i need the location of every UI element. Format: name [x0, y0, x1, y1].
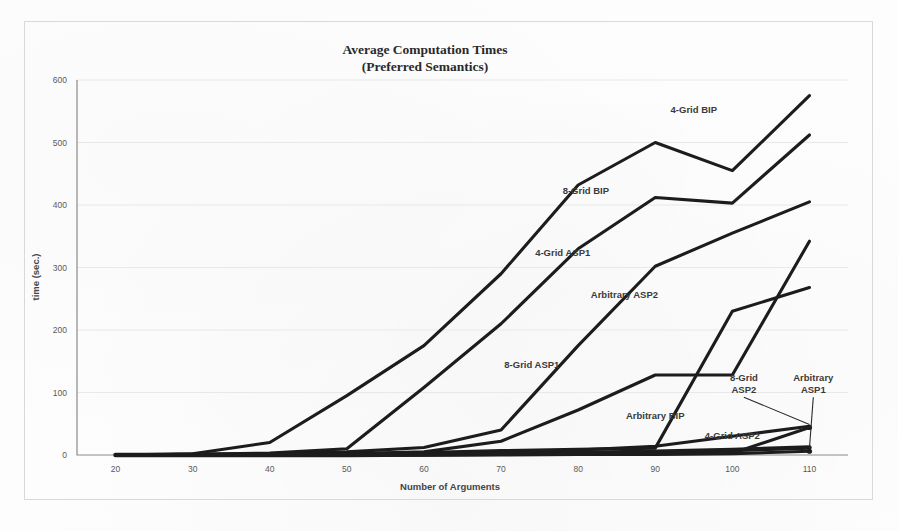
- y-axis-tick-labels: 0100200300400500600: [53, 75, 67, 460]
- series-callout-line: 8-Grid: [730, 372, 758, 383]
- series-callout-arbitrary-asp1: ArbitraryASP1: [793, 372, 834, 454]
- series-label-4-grid-asp2: 4-Grid ASP2: [705, 430, 760, 441]
- series-callout-line: Arbitrary: [793, 372, 834, 383]
- series-callout-line: ASP2: [732, 384, 757, 395]
- chart-frame: 0100200300400500600 20304050607080901001…: [24, 21, 873, 500]
- data-line-8-grid-asp1: [116, 241, 810, 455]
- chart-title: Average Computation Times: [343, 42, 508, 57]
- y-tick-label: 0: [62, 450, 67, 460]
- y-tick-label: 600: [53, 75, 67, 85]
- series-label-8-grid-asp1: 8-Grid ASP1: [504, 359, 560, 370]
- x-axis-tick-labels: 2030405060708090100110: [111, 464, 817, 474]
- x-tick-label: 80: [573, 464, 583, 474]
- series-label-arbitrary-bip: Arbitrary BIP: [626, 410, 685, 421]
- line-chart: 0100200300400500600 20304050607080901001…: [25, 22, 872, 499]
- grid-layer: [77, 80, 848, 393]
- x-tick-label: 30: [188, 464, 198, 474]
- callout-leader-line: [809, 397, 813, 448]
- y-tick-label: 400: [53, 200, 67, 210]
- y-tick-label: 500: [53, 138, 67, 148]
- chart-subtitle: (Preferred Semantics): [362, 59, 489, 74]
- series-label-8-grid-bip: 8-Grid BIP: [563, 185, 610, 196]
- x-tick-label: 100: [725, 464, 739, 474]
- x-tick-label: 40: [265, 464, 275, 474]
- y-axis-label: time (sec.): [30, 254, 41, 301]
- y-tick-label: 200: [53, 325, 67, 335]
- series-callout-line: ASP1: [801, 384, 827, 395]
- y-tick-label: 100: [53, 388, 67, 398]
- callout-leader-line: [744, 397, 810, 424]
- x-tick-label: 50: [342, 464, 352, 474]
- series-label-arbitrary-asp2: Arbitrary ASP2: [591, 289, 658, 300]
- x-tick-label: 90: [651, 464, 661, 474]
- x-tick-label: 60: [419, 464, 429, 474]
- x-tick-label: 20: [111, 464, 121, 474]
- x-tick-label: 110: [803, 464, 817, 474]
- data-series-layer: [116, 96, 810, 455]
- y-tick-label: 300: [53, 263, 67, 273]
- x-tick-label: 70: [496, 464, 506, 474]
- data-line-4-grid-bip: [116, 96, 810, 455]
- data-line-4-grid-asp1: [116, 202, 810, 455]
- callout-endpoint-marker: [807, 449, 812, 454]
- series-label-4-grid-bip: 4-Grid BIP: [671, 104, 718, 115]
- series-label-4-grid-asp1: 4-Grid ASP1: [535, 247, 591, 258]
- data-line-8-grid-bip: [116, 135, 810, 455]
- x-axis-label: Number of Arguments: [400, 481, 500, 492]
